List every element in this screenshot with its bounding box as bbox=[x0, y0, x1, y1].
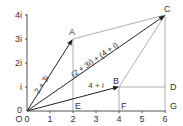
x-tick-0: 0 bbox=[24, 114, 29, 124]
vector-OC-label: (2 + 3i) + (4 + i) bbox=[69, 40, 120, 79]
vector-OA bbox=[27, 40, 72, 111]
point-A-label: A bbox=[69, 27, 75, 37]
line-A-C bbox=[73, 15, 165, 39]
y-tick-3i: 3i bbox=[15, 34, 22, 44]
complex-plane-diagram: 4i 3i 2i i 0 O 0 1 2 3 4 5 6 2 + 3i (2 +… bbox=[0, 0, 183, 126]
line-B-C bbox=[119, 15, 165, 87]
x-tick-6: 6 bbox=[162, 114, 167, 124]
point-B-label: B bbox=[113, 76, 119, 86]
x-tick-5: 5 bbox=[139, 114, 144, 124]
point-D-label: D bbox=[170, 82, 177, 92]
x-tick-4: 4 bbox=[116, 114, 121, 124]
point-G-label: G bbox=[170, 101, 177, 111]
y-tick-2i: 2i bbox=[15, 58, 22, 68]
y-tick-labels: 4i 3i 2i i 0 bbox=[15, 10, 22, 115]
x-tick-2: 2 bbox=[70, 114, 75, 124]
y-tick-4i: 4i bbox=[15, 10, 22, 20]
point-E-label: E bbox=[75, 101, 81, 111]
point-F-label: F bbox=[121, 101, 127, 111]
point-C-label: C bbox=[164, 4, 171, 14]
x-tick-1: 1 bbox=[47, 114, 52, 124]
y-tick-i: i bbox=[20, 82, 22, 92]
x-tick-3: 3 bbox=[93, 114, 98, 124]
vector-OB-label: 4 + i bbox=[88, 81, 104, 90]
x-tick-labels: O 0 1 2 3 4 5 6 bbox=[15, 114, 167, 124]
point-labels: A B C D E F G bbox=[69, 4, 177, 111]
origin-label: O bbox=[15, 114, 22, 124]
